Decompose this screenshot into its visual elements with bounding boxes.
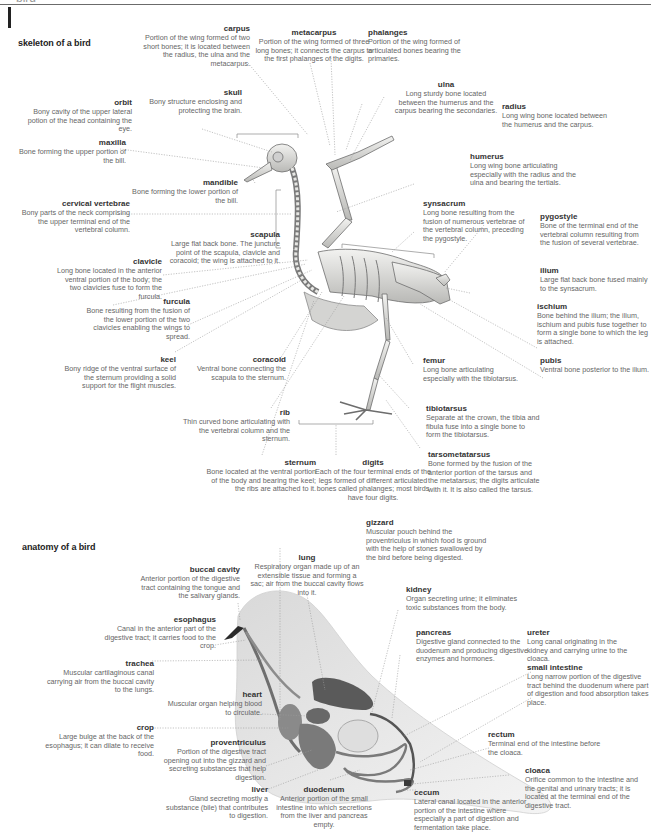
label-femur: femur Long bone articulating especially … <box>423 356 527 383</box>
description: Long wing bone articulating especially w… <box>470 162 582 188</box>
label-keel: keel Bony ridge of the ventral surface o… <box>64 355 176 391</box>
label-maxilla: maxilla Bone forming the upper portion o… <box>18 138 126 165</box>
label-ilium: ilium Large flat back bone fused mainly … <box>540 266 648 293</box>
label-buccal-cavity: buccal cavity Anterior portion of the di… <box>134 565 240 601</box>
description: Terminal end of the intestine before the… <box>488 740 604 757</box>
description: Bony structure enclosing and protecting … <box>146 98 242 115</box>
description: Portion of the wing formed of articulate… <box>368 38 468 64</box>
description: Lateral canal located in the anterior po… <box>414 798 528 832</box>
label-small-intestine: small intestine Long narrow portion of t… <box>527 663 651 707</box>
label-tarsometatarsus: tarsometatarsus Bone formed by the fusio… <box>428 450 542 494</box>
label-clavicle: clavicle Long bone located in the anteri… <box>52 257 162 301</box>
description: Large flat back bone fused mainly to the… <box>540 276 648 293</box>
description: Bone behind the ilium; the ilium, ischiu… <box>537 312 649 346</box>
label-trachea: trachea Muscular cartilaginous canal car… <box>40 659 154 695</box>
description: Anterior portion of the small intestine … <box>270 795 378 829</box>
description: Each of the four terminal ends of the le… <box>315 468 431 502</box>
label-scapula: scapula Large flat back bone. The junctu… <box>168 230 280 266</box>
label-tibiotarsus: tibiotarsus Separate at the crown, the t… <box>426 404 540 440</box>
description: Ventral bone connecting the scapula to t… <box>196 365 286 382</box>
description: Portion of the wing formed of two short … <box>138 34 250 68</box>
label-metacarpus: metacarpus Portion of the wing formed of… <box>253 28 375 64</box>
label-cloaca: cloaca Orifice common to the intestine a… <box>525 766 641 810</box>
description: Bony cavity of the upper lateral potion … <box>24 108 132 134</box>
description: Bone of the terminal end of the vertebra… <box>540 222 650 248</box>
description: Anterior portion of the digestive tract … <box>134 575 240 601</box>
label-ureter: ureter Long canal originating in the kid… <box>527 628 639 664</box>
label-gizzard: gizzard Muscular pouch behind the proven… <box>366 518 490 562</box>
description: Muscular cartilaginous canal carrying ai… <box>40 669 154 695</box>
description: Bony parts of the neck comprising the up… <box>20 209 130 235</box>
label-humerus: humerus Long wing bone articulating espe… <box>470 152 582 188</box>
section-title-skeleton: skeleton of a bird <box>18 38 91 48</box>
description: Large bulge at the back of the esophagus… <box>42 733 154 759</box>
description: Thin curved bone articulating with the v… <box>180 418 290 444</box>
description: Organ secreting urine; it eliminates tox… <box>406 595 520 612</box>
label-skull: skull Bony structure enclosing and prote… <box>146 88 242 115</box>
label-mandible: mandible Bone forming the lower portion … <box>132 178 238 205</box>
bird-anatomy-illustration <box>224 591 551 814</box>
description: Muscular pouch behind the proventriculus… <box>366 528 490 562</box>
description: Separate at the crown, the tibia and fib… <box>426 414 540 440</box>
label-synsacrum: synsacrum Long bone resulting from the f… <box>423 199 533 243</box>
section-title-anatomy: anatomy of a bird <box>22 542 95 552</box>
description: Bone located at the ventral portion of t… <box>204 468 316 494</box>
label-ischium: ischium Bone behind the ilium; the ilium… <box>537 302 649 346</box>
description: Bone formed by the fusion of the anterio… <box>428 460 542 494</box>
label-cervical-vertebrae: cervical vertebrae Bony parts of the nec… <box>20 199 130 235</box>
label-orbit: orbit Bony cavity of the upper lateral p… <box>24 98 132 134</box>
description: Bone resulting from the fusion of the lo… <box>84 307 190 341</box>
description: Long bone articulating especially with t… <box>423 366 527 383</box>
label-phalanges: phalanges Portion of the wing formed of … <box>368 28 468 64</box>
description: Bone forming the lower portion of the bi… <box>132 188 238 205</box>
label-crop: crop Large bulge at the back of the esop… <box>42 723 154 759</box>
label-pygostyle: pygostyle Bone of the terminal end of th… <box>540 212 650 248</box>
label-heart: heart Muscular organ helping blood to ci… <box>160 690 262 717</box>
label-ulna: ulna Long sturdy bone located between th… <box>392 80 500 116</box>
label-carpus: carpus Portion of the wing formed of two… <box>138 24 250 68</box>
description: Canal in the anterior part of the digest… <box>104 625 216 651</box>
label-coracoid: coracoid Ventral bone connecting the sca… <box>196 355 286 382</box>
description: Long bone resulting from the fusion of n… <box>423 209 533 243</box>
label-pubis: pubis Ventral bone posterior to the iliu… <box>540 356 650 375</box>
description: Gland secreting mostly a substance (bile… <box>162 795 268 821</box>
label-duodenum: duodenum Anterior portion of the small i… <box>270 785 378 829</box>
label-esophagus: esophagus Canal in the anterior part of … <box>104 615 216 651</box>
description: Portion of the digestive tract opening o… <box>158 748 266 782</box>
description: Long wing bone located between the humer… <box>502 112 610 129</box>
label-cecum: cecum Lateral canal located in the anter… <box>414 788 528 832</box>
label-furcula: furcula Bone resulting from the fusion o… <box>84 297 190 341</box>
description: Orifice common to the intestine and the … <box>525 776 641 810</box>
description: Long sturdy bone located between the hum… <box>392 90 500 116</box>
description: Long narrow portion of the digestive tra… <box>527 673 651 707</box>
label-digits: digits Each of the four terminal ends of… <box>315 458 431 502</box>
description: Muscular organ helping blood to circulat… <box>160 700 262 717</box>
label-proventriculus: proventriculus Portion of the digestive … <box>158 738 266 782</box>
label-pancreas: pancreas Digestive gland connected to th… <box>416 628 528 664</box>
description: Respiratory organ made up of an extensib… <box>250 563 364 597</box>
description: Large flat back bone. The juncture point… <box>168 240 280 266</box>
description: Ventral bone posterior to the ilium. <box>540 366 650 375</box>
label-rectum: rectum Terminal end of the intestine bef… <box>488 730 604 757</box>
description: Portion of the wing formed of three long… <box>253 38 375 64</box>
label-lung: lung Respiratory organ made up of an ext… <box>250 553 364 597</box>
label-liver: liver Gland secreting mostly a substance… <box>162 785 268 821</box>
description: Long canal originating in the kidney and… <box>527 638 639 664</box>
description: Bony ridge of the ventral surface of the… <box>64 365 176 391</box>
description: Bone forming the upper portion of the bi… <box>18 148 126 165</box>
label-kidney: kidney Organ secreting urine; it elimina… <box>406 585 520 612</box>
label-radius: radius Long wing bone located between th… <box>502 102 610 129</box>
description: Digestive gland connected to the duodenu… <box>416 638 528 664</box>
label-rib: rib Thin curved bone articulating with t… <box>180 408 290 444</box>
label-sternum: sternum Bone located at the ventral port… <box>204 458 316 494</box>
